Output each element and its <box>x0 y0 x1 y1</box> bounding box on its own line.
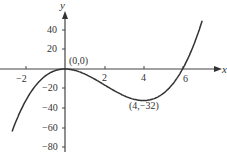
annotation-minimum: (4,−32) <box>129 100 159 112</box>
x-tick-label: −2 <box>16 73 27 84</box>
y-axis-arrow-icon <box>62 11 68 19</box>
y-tick-label: 20 <box>47 43 57 54</box>
x-tick-label: 4 <box>141 72 146 83</box>
y-tick-label: −80 <box>42 141 58 152</box>
annotation-origin: (0,0) <box>69 55 88 67</box>
y-tick-label: −20 <box>42 82 58 93</box>
y-tick-label: 40 <box>47 24 57 35</box>
y-tick-label: −60 <box>42 122 58 133</box>
x-axis-label: x <box>221 63 227 75</box>
y-tick-label: −40 <box>42 102 58 113</box>
x-tick-label: 2 <box>102 72 107 83</box>
y-axis-label: y <box>59 0 65 11</box>
x-axis-arrow-icon <box>214 66 222 72</box>
x-tick-label: 6 <box>183 73 188 84</box>
function-curve <box>12 21 202 132</box>
chart: x y −2 2 4 6 40 20 −20 −40 −60 −80 (0,0)… <box>0 0 227 155</box>
